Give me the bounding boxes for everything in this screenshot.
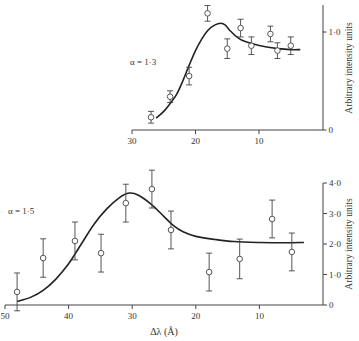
bottom-alpha-label: α = 1·5 — [8, 206, 35, 216]
point-marker — [237, 256, 243, 262]
y-tick-label: 3·0 — [329, 209, 341, 219]
y-tick-label: 0 — [329, 300, 334, 310]
data-point — [168, 211, 174, 249]
data-point — [274, 43, 280, 59]
x-tick-label: 40 — [64, 311, 74, 321]
data-point — [205, 6, 211, 22]
y-tick-label: 0 — [329, 125, 334, 135]
point-marker — [167, 94, 173, 100]
point-marker — [14, 289, 20, 295]
bottom-fit-curve — [17, 193, 304, 301]
point-marker — [288, 43, 294, 49]
point-marker — [148, 114, 154, 120]
data-point — [40, 239, 46, 277]
point-marker — [123, 200, 129, 206]
x-tick-label: 30 — [128, 311, 138, 321]
top-alpha-label: α = 1·3 — [130, 57, 157, 67]
y-tick-label: 1·0 — [329, 27, 341, 37]
data-point — [206, 253, 212, 291]
bottom-y-axis-label: Arbitrary intensity units — [344, 198, 354, 290]
figure: 302010 01·0 α = 1·3 Arbitrary intensity … — [0, 0, 359, 341]
point-marker — [40, 255, 46, 261]
data-point — [238, 19, 244, 37]
point-marker — [224, 46, 230, 52]
x-tick-label: 10 — [255, 311, 265, 321]
point-marker — [238, 25, 244, 31]
point-marker — [72, 238, 78, 244]
data-point — [224, 39, 230, 59]
top-y-axis-label: Arbitrary intensity units — [344, 22, 354, 114]
top-panel: 302010 01·0 α = 1·3 Arbitrary intensity … — [128, 5, 355, 146]
x-tick-label: 20 — [191, 136, 201, 146]
top-fit-curve — [156, 23, 300, 118]
data-point — [123, 184, 129, 222]
bottom-panel: 5040302010 01·02·03·04·0 α = 1·5 Arbitra… — [1, 170, 355, 338]
data-point — [288, 37, 294, 55]
x-tick-label: 20 — [191, 311, 201, 321]
data-point — [248, 37, 254, 55]
x-tick-label: 10 — [255, 136, 265, 146]
data-point — [237, 239, 243, 279]
y-tick-label: 2·0 — [329, 239, 341, 249]
point-marker — [269, 216, 275, 222]
x-tick-label: 30 — [128, 136, 138, 146]
point-marker — [149, 186, 155, 192]
point-marker — [268, 31, 274, 37]
point-marker — [275, 48, 281, 54]
data-point — [148, 111, 154, 123]
data-point — [289, 233, 295, 271]
data-point — [267, 26, 273, 42]
data-point — [269, 200, 275, 238]
x-tick-label: 50 — [1, 311, 11, 321]
point-marker — [98, 250, 104, 256]
data-point — [72, 222, 78, 260]
point-marker — [205, 11, 211, 17]
point-marker — [249, 43, 255, 49]
point-marker — [289, 249, 295, 255]
y-tick-label: 1·0 — [329, 270, 341, 280]
point-marker — [206, 269, 212, 275]
point-marker — [168, 227, 174, 233]
point-marker — [186, 73, 192, 79]
data-point — [98, 234, 104, 272]
bottom-x-axis-label: Δλ (Å) — [150, 326, 178, 338]
y-tick-label: 4·0 — [329, 178, 341, 188]
